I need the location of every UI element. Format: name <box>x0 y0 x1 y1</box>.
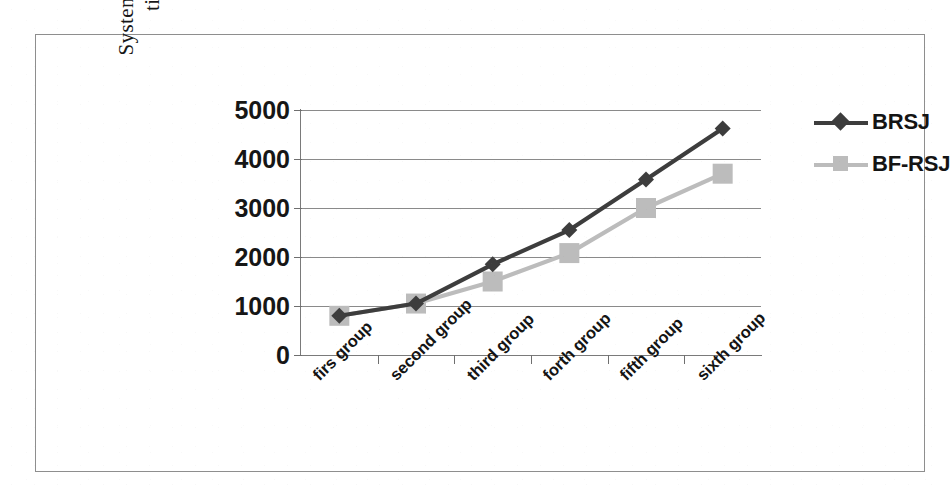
legend-label: BRSJ <box>872 109 930 135</box>
y-tick-label: 4000 <box>234 147 290 172</box>
square-marker <box>713 164 733 184</box>
figure-frame: System execution time(S) 500040003000200… <box>35 34 925 472</box>
x-tick-mark <box>531 355 532 364</box>
x-tick-mark <box>684 355 685 364</box>
legend-label: BF-RSJ <box>872 151 950 177</box>
x-tick-mark <box>608 355 609 364</box>
x-tick-mark <box>454 355 455 364</box>
series-line <box>339 174 722 316</box>
y-tick-mark <box>294 355 302 356</box>
square-marker <box>483 272 503 292</box>
y-tick-label: 3000 <box>234 196 290 221</box>
y-tick-label: 0 <box>276 343 290 368</box>
y-axis-title-text: System execution time(S) <box>114 0 165 56</box>
series-brsj <box>331 121 730 324</box>
legend-item[interactable]: BF-RSJ <box>814 143 952 185</box>
y-tick-label: 1000 <box>234 294 290 319</box>
diamond-marker <box>831 112 849 130</box>
x-tick-mark <box>378 355 379 364</box>
series-bf-rsj <box>329 164 732 326</box>
chart-legend: BRSJBF-RSJ <box>814 101 952 185</box>
series-line <box>339 129 722 316</box>
y-tick-label: 2000 <box>234 245 290 270</box>
diamond-marker <box>485 256 501 272</box>
y-axis-title: System execution time(S) <box>114 0 170 103</box>
square-marker <box>559 243 579 263</box>
legend-swatch <box>814 154 868 174</box>
square-marker <box>833 156 848 171</box>
legend-item[interactable]: BRSJ <box>814 101 952 143</box>
square-marker <box>636 198 656 218</box>
y-tick-label: 5000 <box>234 98 290 123</box>
legend-swatch <box>814 112 868 132</box>
